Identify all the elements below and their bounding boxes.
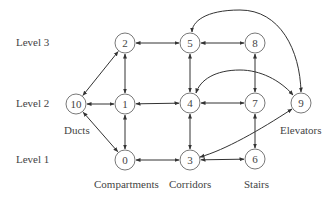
node-8: 8 [245, 33, 265, 53]
node-label: 2 [122, 37, 128, 49]
level-label-2: Level 2 [16, 97, 49, 109]
level-label-1: Level 1 [16, 153, 49, 165]
edge-3-9 [200, 109, 292, 157]
node-9: 9 [291, 93, 311, 113]
graph-edges: 012345678910 [0, 0, 336, 198]
node-5: 5 [180, 33, 200, 53]
edge-1-4 [136, 103, 179, 104]
node-1: 1 [115, 94, 135, 114]
level-label-3: Level 3 [16, 36, 49, 48]
edge-3-6 [201, 159, 244, 160]
node-7: 7 [245, 93, 265, 113]
node-label: 3 [187, 154, 193, 166]
node-label: 7 [252, 97, 258, 109]
node-4: 4 [180, 93, 200, 113]
edge-5-9 [192, 10, 301, 92]
node-label: 10 [71, 98, 83, 110]
node-2: 2 [115, 33, 135, 53]
edge-4-9 [196, 70, 293, 95]
category-label-elevators: Elevators [280, 124, 322, 136]
category-label-compartments: Compartments [94, 178, 159, 190]
edge-10-2 [83, 52, 118, 96]
node-label: 6 [252, 153, 258, 165]
category-label-stairs: Stairs [244, 178, 269, 190]
node-label: 1 [122, 98, 128, 110]
building-graph-diagram: 012345678910 Level 3 Level 2 Level 1 Duc… [0, 0, 336, 198]
category-label-ducts: Ducts [64, 124, 90, 136]
category-label-corridors: Corridors [169, 178, 211, 190]
node-label: 8 [252, 37, 258, 49]
node-10: 10 [66, 94, 86, 114]
node-3: 3 [180, 150, 200, 170]
node-6: 6 [245, 149, 265, 169]
node-label: 9 [298, 97, 304, 109]
node-label: 0 [122, 154, 128, 166]
node-label: 5 [187, 37, 193, 49]
node-label: 4 [187, 97, 193, 109]
node-0: 0 [115, 150, 135, 170]
